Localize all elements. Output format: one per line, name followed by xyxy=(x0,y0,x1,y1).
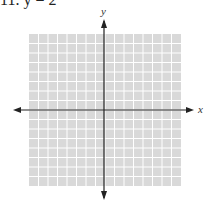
x-axis-right-arrow-icon xyxy=(186,107,194,113)
coordinate-plane: x y xyxy=(0,0,205,201)
x-axis-left-arrow-icon xyxy=(13,107,21,113)
y-axis-label: y xyxy=(100,5,106,17)
x-axis-label: x xyxy=(197,103,203,115)
y-axis-up-arrow-icon xyxy=(101,19,107,28)
y-axis-down-arrow-icon xyxy=(101,191,107,200)
